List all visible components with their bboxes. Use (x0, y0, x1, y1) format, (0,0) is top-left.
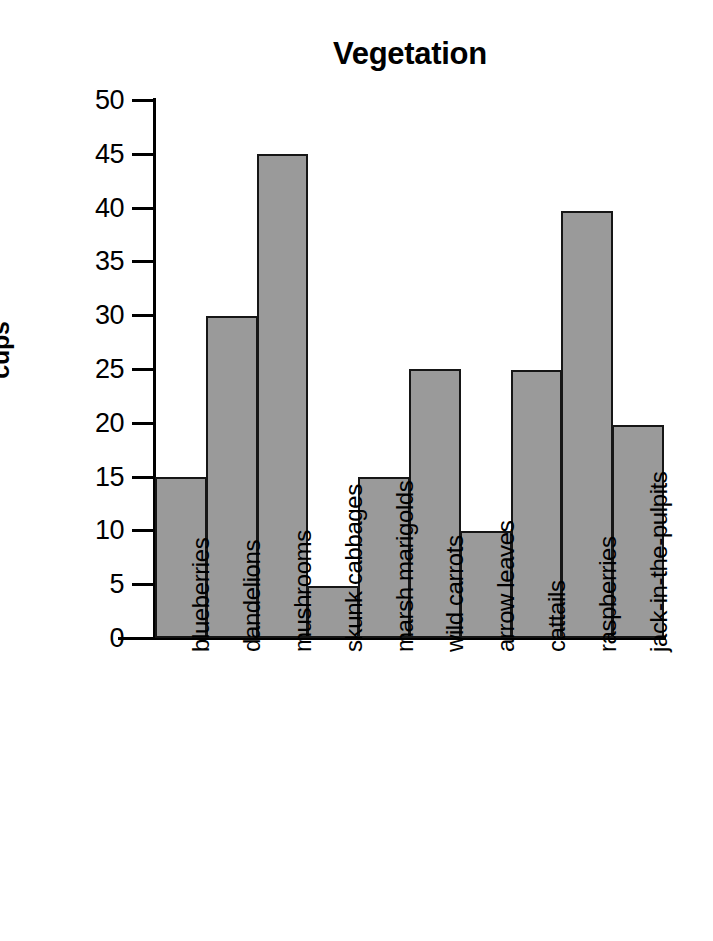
x-axis-tick-label: skunk cabbages (342, 484, 366, 652)
x-axis-tick-label: mushrooms (291, 530, 315, 652)
y-axis-tick-mark (132, 422, 155, 425)
y-axis-tick-mark (132, 529, 155, 532)
y-axis-tick-label: 10 (64, 522, 124, 538)
x-axis-tick-label: blueberries (189, 538, 213, 652)
y-axis-tick: 50 (0, 92, 155, 108)
y-axis-tick-mark (132, 260, 155, 263)
y-axis-tick-mark (132, 153, 155, 156)
y-axis-tick-mark (132, 637, 155, 640)
y-axis-tick-label: 45 (64, 146, 124, 162)
y-axis-tick-label: 35 (64, 253, 124, 269)
y-axis-tick: 20 (0, 415, 155, 431)
y-axis-tick-label: 25 (64, 361, 124, 377)
y-axis-tick-label: 20 (64, 415, 124, 431)
y-axis-tick-mark (132, 99, 155, 102)
x-axis-tick-label: arrow leaves (494, 521, 518, 652)
y-axis-tick-mark (132, 314, 155, 317)
y-axis-tick: 35 (0, 253, 155, 269)
x-axis-tick-label: jack-in-the-pulpits (647, 472, 671, 652)
y-axis-tick-mark (132, 476, 155, 479)
y-axis-tick-label: 40 (64, 200, 124, 216)
chart-title: Vegetation (155, 38, 665, 69)
y-axis-tick: 40 (0, 200, 155, 216)
y-axis-tick-label: 0 (64, 630, 124, 646)
x-axis-tick-label: wild carrots (443, 535, 467, 652)
x-axis-tick-label: cattails (545, 581, 569, 653)
x-axis-tick-label: marsh marigolds (393, 481, 417, 652)
bar-chart: Vegetation cups 05101520253035404550 blu… (0, 0, 713, 941)
y-axis-tick: 0 (0, 630, 155, 646)
y-axis-tick-mark (132, 368, 155, 371)
y-axis-tick-label: 5 (64, 576, 124, 592)
y-axis-tick-mark (132, 207, 155, 210)
y-axis-tick-label: 30 (64, 307, 124, 323)
y-axis-tick-label: 50 (64, 92, 124, 108)
x-axis-tick-label: raspberries (596, 536, 620, 652)
x-axis-tick-label: dandelions (240, 540, 264, 652)
y-axis-tick: 5 (0, 576, 155, 592)
y-axis-tick: 10 (0, 522, 155, 538)
y-axis-tick: 15 (0, 469, 155, 485)
y-axis-tick: 30 (0, 307, 155, 323)
y-axis-tick-label: 15 (64, 469, 124, 485)
y-axis-tick: 45 (0, 146, 155, 162)
y-axis-tick: 25 (0, 361, 155, 377)
y-axis-tick-mark (132, 583, 155, 586)
